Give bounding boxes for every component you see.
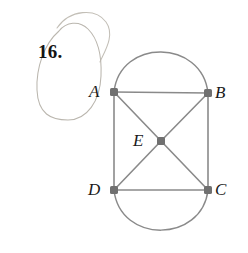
vertex-label-A: A: [89, 83, 99, 100]
edge-BE: [161, 93, 208, 141]
figure-page: 16. A B E D C: [0, 0, 248, 253]
vertex-label-B: B: [215, 84, 225, 101]
vertex-label-C: C: [215, 181, 226, 198]
edge-CE: [161, 141, 208, 190]
vertex-B: [204, 89, 212, 97]
vertex-D: [110, 186, 118, 194]
handdrawn-oval-annotation: [37, 12, 110, 120]
vertex-label-D: D: [88, 181, 100, 198]
vertex-C: [204, 186, 212, 194]
problem-number: 16.: [38, 42, 63, 61]
vertex-label-E: E: [133, 132, 143, 149]
edge-curve-AB: [114, 52, 208, 93]
edge-AB: [114, 92, 208, 93]
graph-figure: [0, 0, 248, 253]
edge-curve-DC: [114, 190, 208, 230]
vertex-E: [157, 137, 165, 145]
vertex-A: [110, 88, 118, 96]
